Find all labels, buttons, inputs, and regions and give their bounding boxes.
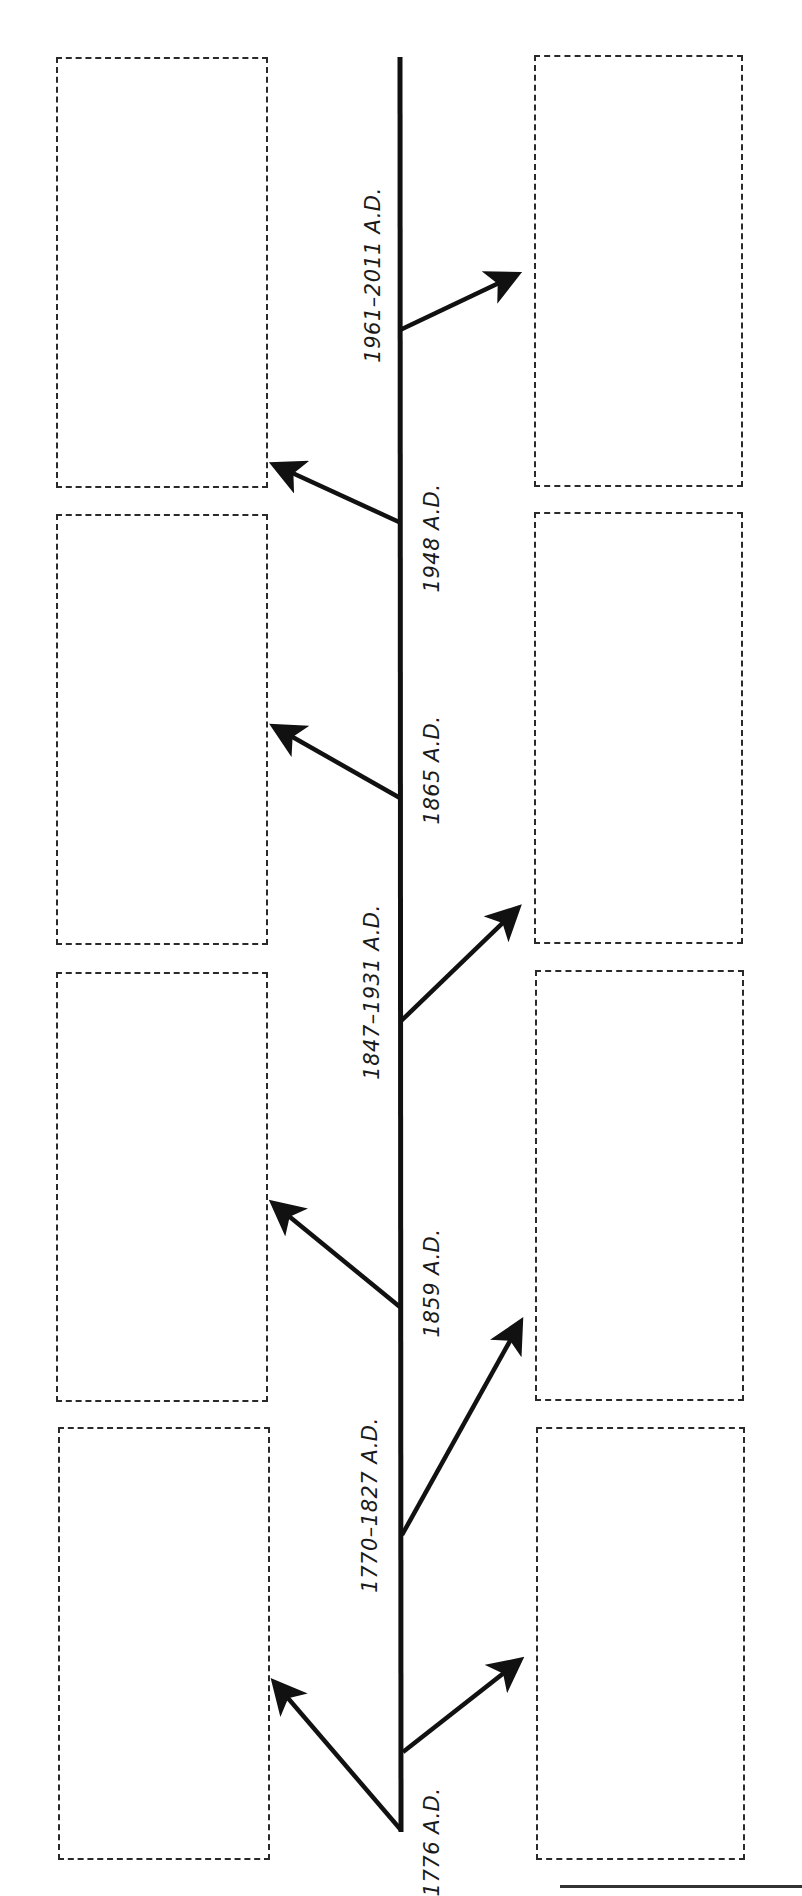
answer-box-left-4[interactable] <box>58 1427 270 1860</box>
arrow-1865 <box>275 727 400 798</box>
page-edge-line <box>560 1885 802 1888</box>
date-label-1859: 1859 A.D. <box>422 1229 443 1338</box>
answer-box-right-2[interactable] <box>534 512 743 944</box>
date-label-1770-1827: 1770–1827 A.D. <box>360 1417 381 1592</box>
answer-box-left-2[interactable] <box>56 514 268 945</box>
answer-box-left-1[interactable] <box>56 57 268 488</box>
arrow-1776-right <box>403 1661 519 1752</box>
answer-box-right-3[interactable] <box>535 970 744 1401</box>
answer-box-left-3[interactable] <box>56 972 268 1402</box>
arrow-1847-1931 <box>400 909 517 1022</box>
timeline-axis <box>400 57 401 1832</box>
arrow-1770-1827 <box>402 1323 520 1535</box>
arrow-1961-2011 <box>400 275 516 330</box>
arrow-1776-left <box>275 1683 401 1830</box>
answer-box-right-1[interactable] <box>534 55 743 487</box>
arrow-1859 <box>274 1204 400 1307</box>
date-label-1847-1931: 1847–1931 A.D. <box>362 904 383 1079</box>
date-label-1776: 1776 A.D. <box>422 1788 443 1896</box>
answer-box-right-4[interactable] <box>536 1427 745 1860</box>
date-label-1961-2011: 1961–2011 A.D. <box>363 187 384 362</box>
date-label-1865: 1865 A.D. <box>422 716 443 825</box>
arrow-1948 <box>275 465 399 522</box>
date-label-1948: 1948 A.D. <box>422 484 443 593</box>
